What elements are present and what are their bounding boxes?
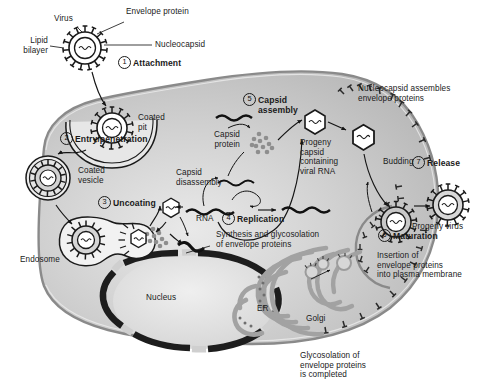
coated-vesicle (26, 156, 70, 200)
label-insertion: Insertion of envelope proteins into plas… (377, 251, 462, 280)
step-label-maturation: Maturation (393, 231, 438, 241)
step-number-3: 3 (98, 196, 111, 209)
progeny-capsid (305, 110, 325, 134)
label-progeny-capsid: Progeny capsid containing viral RNA (300, 138, 338, 177)
step-number-2: 2 (60, 132, 73, 145)
step-number-7: 7 (412, 156, 425, 169)
label-synthesis-glycosolation: Synthesis and glycosolation of envelope … (216, 230, 319, 249)
nucleocapsid-free-cytoplasm (163, 198, 179, 217)
label-endosome: Endosome (20, 255, 60, 265)
label-nucleus: Nucleus (146, 293, 176, 303)
label-virus: Virus (54, 14, 73, 24)
step-label-entry-penetration: Entry/penetration (75, 134, 148, 144)
viral-replication-diagram: Virus Envelope protein Nucleocapsid Lipi… (0, 0, 487, 389)
step-number-4: 4 (222, 212, 235, 225)
label-capsid-disassembly: Capsid disassembly (176, 168, 222, 187)
diagram-canvas (0, 0, 487, 389)
nucleocapsid-at-membrane (353, 125, 374, 150)
label-coated-pit: Coated pit (138, 113, 165, 132)
label-nucleocapsid-assembles: Nucleocapsid assembles envelope proteins (358, 84, 450, 103)
label-glycosolation-completed: Glycosolation of envelope proteins is co… (300, 351, 366, 380)
label-lipid-bilayer: Lipid bilayer (0, 36, 48, 55)
label-nucleocapsid: Nucleocapsid (155, 40, 205, 50)
step-label-release: Release (427, 158, 460, 168)
step-label-replication: Replication (237, 214, 284, 224)
step-number-6: 6 (378, 229, 391, 242)
label-capsid-protein: Capsid protein (196, 130, 240, 149)
label-golgi: Golgi (306, 314, 326, 324)
label-er: ER (257, 304, 269, 314)
step-label-uncoating: Uncoating (113, 198, 156, 208)
label-rna: RNA (196, 214, 214, 224)
step-label-attachment: Attachment (133, 58, 181, 68)
step-label-capsid-assembly: Capsid assembly (258, 95, 298, 115)
label-coated-vesicle: Coated vesicle (78, 166, 105, 185)
label-envelope-protein: Envelope protein (126, 7, 189, 17)
step-number-1: 1 (118, 56, 131, 69)
label-budding: Budding (383, 157, 414, 167)
step-number-5: 5 (243, 93, 256, 106)
